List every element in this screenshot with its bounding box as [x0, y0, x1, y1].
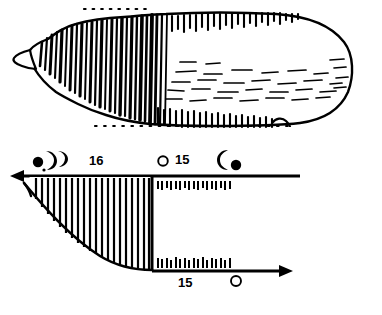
- label-count-15-top: 15: [175, 153, 189, 166]
- moon-full-open-bottom: [231, 276, 241, 286]
- moon-full-open-top: [158, 156, 168, 166]
- moon-new-filled-left-dot: [42, 168, 45, 171]
- moon-new-filled-left: [33, 157, 43, 167]
- label-count-15-bottom: 15: [178, 276, 192, 289]
- figure-canvas: [0, 0, 382, 315]
- label-count-16: 16: [89, 154, 103, 167]
- moon-new-filled-right: [231, 160, 241, 170]
